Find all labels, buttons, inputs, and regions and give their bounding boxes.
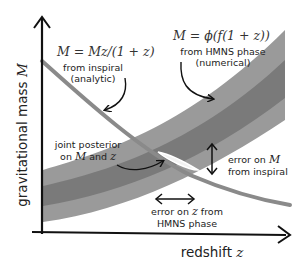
x-axis-label: redshift z [181, 244, 245, 260]
x-axis-label-symbol: z [235, 244, 244, 260]
posterior-symbol-m: M [74, 150, 87, 163]
x-axis [32, 232, 286, 235]
error-z-label-line2: HMNS phase [157, 218, 217, 229]
error-z-prefix: error on [151, 206, 192, 217]
inspiral-equation: M = Mz/(1 + z) [56, 44, 155, 59]
posterior-label-line2: on M and z [60, 150, 116, 163]
y-axis-label: gravitational mass M [14, 62, 30, 207]
diagram: M = Mz/(1 + z) from inspiral (analytic) … [0, 0, 305, 271]
x-axis-label-text: redshift [181, 244, 232, 260]
posterior-prefix: on [60, 151, 75, 162]
y-axis-label-text: gravitational mass [14, 81, 30, 206]
posterior-symbol-z: z [109, 150, 116, 163]
error-z-label-line1: error on z from [151, 205, 223, 218]
posterior-mid: and [86, 151, 110, 162]
hmns-equation: M = ϕ(f(1 + z)) [172, 28, 270, 43]
inspiral-label-line1: from inspiral [63, 62, 123, 73]
hmns-label-line2: (numerical) [196, 57, 251, 68]
error-m-prefix: error on [228, 154, 269, 165]
error-m-label-line2: from inspiral [228, 166, 288, 177]
error-m-label-line1: error on M [228, 153, 281, 166]
y-axis-label-symbol: M [14, 62, 30, 78]
hmns-label-line1: from HMNS phase [180, 46, 265, 57]
posterior-label-line1: joint posterior [54, 139, 122, 150]
inspiral-label-line2: (analytic) [71, 73, 116, 84]
error-z-suffix: from [198, 206, 223, 217]
error-m-symbol: M [268, 153, 281, 166]
